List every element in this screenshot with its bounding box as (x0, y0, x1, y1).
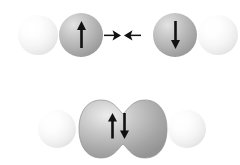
attraction-arrow-left-icon (124, 30, 141, 41)
panel-before-bonding-label: Two separate atoms approaching (0, 0, 1, 1)
attraction-arrow-right-icon (104, 30, 121, 41)
left-outer-atom (18, 15, 58, 55)
left-valence-atom (59, 13, 103, 57)
spin-up-arrow-icon (108, 113, 117, 139)
right-valence-atom (153, 13, 197, 57)
bottom-left-outer-atom (38, 110, 76, 148)
panel-after-bonding-label: Merged molecular orbital with paired ele… (0, 0, 1, 1)
bond-formation-figure: Two separate atoms approaching (0, 0, 240, 165)
spin-up-arrow-icon (77, 21, 86, 49)
spin-down-arrow-icon (120, 113, 129, 139)
bottom-right-outer-atom (168, 110, 206, 148)
shared-molecular-orbital (78, 99, 168, 159)
figure-title: Covalent bond formation from two atoms w… (0, 0, 1, 1)
spin-down-arrow-icon (171, 21, 180, 49)
right-outer-atom (198, 15, 238, 55)
